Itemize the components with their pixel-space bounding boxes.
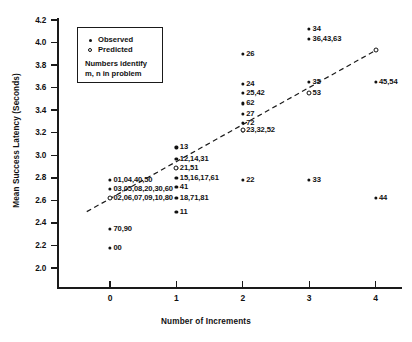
data-point-label: 33 bbox=[313, 175, 321, 184]
data-point-label: 62 bbox=[246, 98, 254, 107]
observed-data-point bbox=[108, 227, 111, 230]
data-point-label: 02,06,07,09,10,80 bbox=[113, 193, 173, 202]
legend-observed-label: Observed bbox=[98, 35, 133, 44]
predicted-data-point bbox=[174, 165, 179, 170]
observed-data-point bbox=[241, 112, 244, 115]
observed-data-point bbox=[241, 52, 244, 55]
data-point-label: 35 bbox=[313, 77, 321, 86]
data-point-label: 00 bbox=[113, 243, 121, 252]
observed-data-point bbox=[374, 196, 377, 199]
data-point-label: 15,16,17,61 bbox=[180, 173, 219, 182]
data-point-label: 18,71,81 bbox=[180, 193, 209, 202]
observed-data-point bbox=[374, 80, 377, 83]
data-point-label: 44 bbox=[379, 193, 387, 202]
data-point-label: 13 bbox=[180, 142, 188, 151]
observed-data-point bbox=[308, 38, 311, 41]
observed-data-point bbox=[175, 157, 178, 160]
data-point-label: 26 bbox=[246, 49, 254, 58]
observed-data-point bbox=[175, 196, 178, 199]
data-point-label: 01,04,40,50 bbox=[113, 175, 152, 184]
observed-data-point bbox=[241, 92, 244, 95]
observed-data-point bbox=[308, 80, 311, 83]
data-point-label: 03,05,08,20,30,60 bbox=[113, 184, 173, 193]
observed-data-point bbox=[241, 121, 244, 124]
data-point-label: 70,90 bbox=[113, 223, 132, 232]
observed-data-point bbox=[175, 146, 178, 149]
legend-observed-marker-icon bbox=[89, 39, 92, 42]
data-point-label: 25,42 bbox=[246, 88, 265, 97]
legend-predicted-label: Predicted bbox=[98, 45, 133, 54]
data-point-label: 23,32,52 bbox=[246, 125, 275, 134]
legend-note-line-1: Numbers identify bbox=[85, 59, 147, 68]
scatter-plot-figure: 2.02.22.42.62.83.03.23.43.63.84.04.2 012… bbox=[0, 0, 412, 342]
legend-box: Observed Predicted Numbers identify m, n… bbox=[77, 27, 163, 83]
observed-data-point bbox=[108, 178, 111, 181]
observed-data-point bbox=[241, 178, 244, 181]
legend-note-line-2: m, n in problem bbox=[85, 69, 142, 78]
legend-predicted-marker-icon bbox=[88, 48, 92, 52]
observed-data-point bbox=[175, 185, 178, 188]
data-point-label: 36,43,63 bbox=[313, 34, 342, 43]
data-point-label: 22 bbox=[246, 175, 254, 184]
observed-data-point bbox=[308, 27, 311, 30]
predicted-data-point bbox=[373, 48, 378, 53]
data-point-label: 24 bbox=[246, 79, 254, 88]
observed-data-point bbox=[108, 187, 111, 190]
predicted-data-point bbox=[108, 196, 113, 201]
data-point-label: 45,54 bbox=[379, 77, 398, 86]
observed-data-point bbox=[241, 83, 244, 86]
predicted-data-point bbox=[240, 128, 245, 133]
data-point-label: 11 bbox=[180, 206, 188, 215]
data-point-label: 53 bbox=[313, 88, 321, 97]
plot-data-area: 01,04,40,5003,05,08,20,30,6002,06,07,09,… bbox=[0, 0, 412, 342]
data-point-label: 34 bbox=[313, 24, 321, 33]
data-point-label: 21,51 bbox=[180, 162, 199, 171]
data-point-label: 12,14,31 bbox=[180, 153, 209, 162]
data-point-label: 27 bbox=[246, 108, 254, 117]
predicted-data-point bbox=[307, 91, 312, 96]
observed-data-point bbox=[241, 102, 244, 105]
observed-data-point bbox=[108, 246, 111, 249]
observed-data-point bbox=[308, 178, 311, 181]
data-point-label: 41 bbox=[180, 182, 188, 191]
observed-data-point bbox=[175, 176, 178, 179]
observed-data-point bbox=[175, 210, 178, 213]
